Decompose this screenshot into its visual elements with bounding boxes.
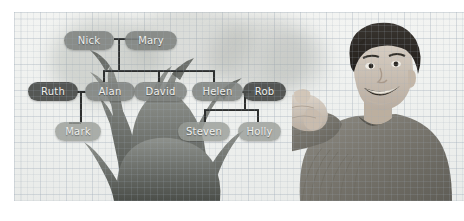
- link-to-alan: [103, 70, 105, 82]
- tree-node-alan[interactable]: Alan: [85, 82, 135, 101]
- tree-node-ruth[interactable]: Ruth: [28, 82, 78, 101]
- tree-node-mary[interactable]: Mary: [125, 31, 177, 50]
- tree-node-mark[interactable]: Mark: [55, 122, 101, 141]
- illustration-root: NickMaryRuthAlanDavidHelenRobMarkStevenH…: [0, 0, 464, 221]
- link-nickmary-down: [118, 38, 120, 71]
- link-to-helen: [213, 70, 215, 82]
- link-ruthalan-down: [80, 91, 82, 123]
- tree-node-rob[interactable]: Rob: [243, 82, 286, 101]
- sibling-bar-generation-3: [204, 109, 259, 111]
- tree-node-steven[interactable]: Steven: [178, 122, 230, 141]
- tree-node-holly[interactable]: Holly: [238, 122, 281, 141]
- link-to-holly: [257, 109, 259, 122]
- boy-photo: [292, 12, 464, 201]
- link-to-steven: [204, 109, 206, 122]
- tree-node-david[interactable]: David: [134, 82, 187, 101]
- tree-node-helen[interactable]: Helen: [192, 82, 243, 101]
- graph-paper-plate: NickMaryRuthAlanDavidHelenRobMarkStevenH…: [14, 12, 464, 201]
- link-to-david: [158, 70, 160, 82]
- tree-node-nick[interactable]: Nick: [64, 31, 114, 50]
